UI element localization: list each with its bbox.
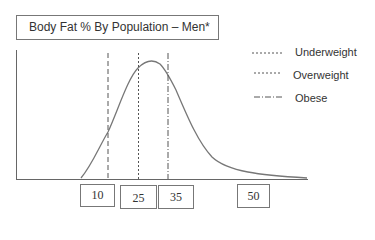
legend-obese-label: Obese	[295, 92, 327, 104]
legend-overweight-label: Overweight	[293, 69, 349, 81]
x-tick-50: 50	[237, 184, 270, 208]
x-tick-35: 35	[158, 185, 194, 209]
x-tick-25: 25	[120, 185, 157, 209]
x-tick-10: 10	[80, 184, 115, 207]
legend-underweight-label: Underweight	[295, 46, 357, 58]
distribution-curve	[81, 61, 307, 178]
